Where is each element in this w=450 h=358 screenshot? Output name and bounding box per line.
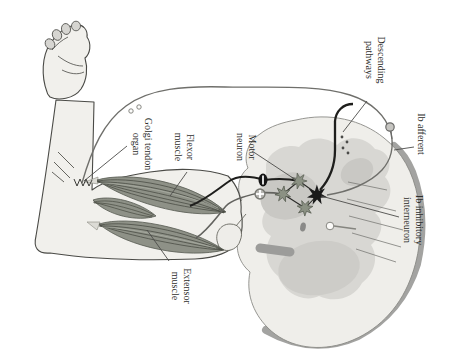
label-ib-inhibitory-interneuron: Ib inhibitory interneuron: [401, 195, 425, 245]
ventral-root-bar: [260, 248, 290, 252]
label-golgi-tendon-organ: Golgi tendon organ: [130, 118, 154, 171]
cut-fiber-circle: [129, 109, 133, 113]
label-ib-afferent: Ib afferent: [415, 113, 427, 155]
excitatory-synapse-symbol: [255, 189, 265, 199]
cut-fiber-circle: [137, 105, 141, 109]
figure-canvas: Golgi tendon organ Flexor muscle Motor n…: [0, 0, 450, 358]
label-extensor-muscle: Extensor muscle: [169, 268, 193, 304]
fist-outline: [43, 25, 90, 99]
label-motor-neuron: Motor neuron: [234, 133, 258, 161]
median-fissure-bulb: [326, 222, 334, 230]
ganglion-cell: [386, 123, 394, 131]
inhibitory-synapse-symbol: [259, 174, 268, 187]
spinal-cord-section: [235, 117, 422, 348]
label-descending-pathways: Descending pathways: [363, 36, 387, 83]
label-flexor-muscle: Flexor muscle: [172, 133, 196, 161]
